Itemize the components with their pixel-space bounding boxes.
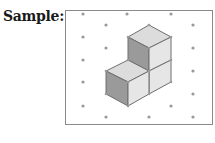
grid-dot [169,104,172,107]
grid-dot [191,23,194,26]
grid-dot [81,12,84,15]
vertex-dot [105,93,108,96]
grid-dot [147,115,150,118]
vertex-dot [127,105,130,108]
vertex-dot [170,81,173,84]
vertex-dot [148,24,151,27]
vertex-dot [170,36,173,39]
vertex-dot [148,47,151,50]
isometric-cube-diagram [0,0,215,143]
vertex-dot [127,81,130,84]
vertex-dot [148,70,151,73]
grid-dot [104,23,107,26]
grid-dot [81,58,84,61]
vertex-dot [170,59,173,62]
grid-dot [81,35,84,38]
grid-dot [169,12,172,15]
grid-dot [81,104,84,107]
grid-dot [104,115,107,118]
grid-dot [191,69,194,72]
grid-dot [125,12,128,15]
grid-dot [191,115,194,118]
vertex-dot [148,93,151,96]
grid-dot [104,46,107,49]
grid-dot [81,80,84,83]
vertex-dot [127,59,130,62]
grid-dot [191,92,194,95]
vertex-dot [105,70,108,73]
vertex-dot [127,36,130,39]
grid-dot [191,46,194,49]
